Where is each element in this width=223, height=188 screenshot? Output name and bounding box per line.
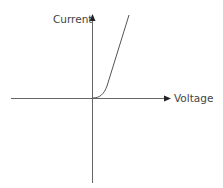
voltage-axis-arrow-icon xyxy=(164,96,171,102)
iv-curve xyxy=(93,15,130,98)
voltage-axis-label: Voltage xyxy=(174,93,213,104)
current-axis-label: Current xyxy=(53,14,92,25)
